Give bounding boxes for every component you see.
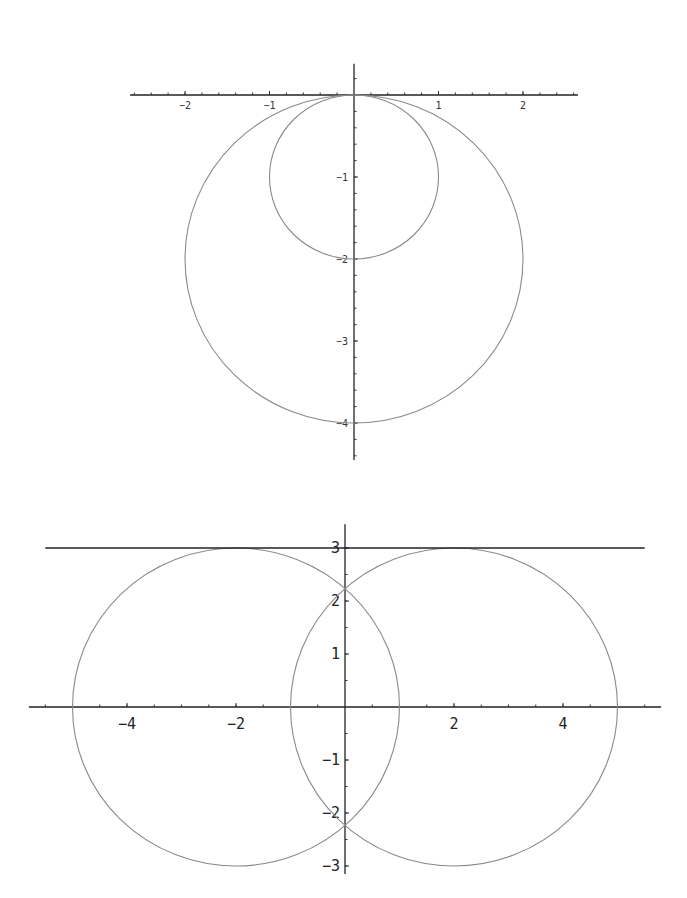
y-tick-label: −1 (336, 172, 348, 183)
y-tick-label: −3 (336, 336, 348, 347)
y-tick-label: −1 (322, 751, 340, 769)
top-plot: −2−112−1−2−3−4 (130, 64, 578, 460)
x-tick-label: 2 (520, 100, 526, 111)
x-tick-label: −1 (263, 100, 275, 111)
bottom-plot: −4−224321−1−2−3 (29, 524, 661, 875)
x-tick-label: −2 (227, 715, 245, 733)
x-tick-label: −2 (179, 100, 191, 111)
plots-canvas: −2−112−1−2−3−4 −4−224321−1−2−3 (0, 0, 687, 898)
x-tick-label: 4 (558, 715, 567, 733)
x-tick-label: −4 (118, 715, 136, 733)
y-tick-label: −3 (322, 857, 340, 875)
x-tick-label: 1 (435, 100, 441, 111)
y-tick-label: 1 (331, 645, 340, 663)
y-tick-label: −2 (322, 804, 340, 822)
x-tick-label: 2 (449, 715, 458, 733)
y-tick-label: −2 (336, 254, 348, 265)
y-tick-label: −4 (336, 418, 348, 429)
